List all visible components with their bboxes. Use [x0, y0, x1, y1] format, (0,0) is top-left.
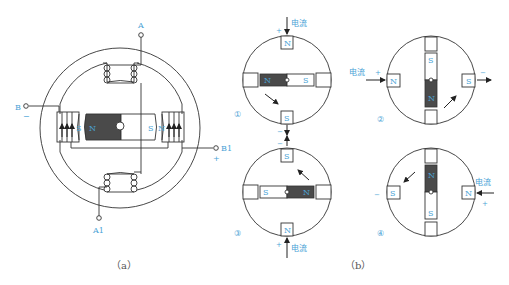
step-number: ④: [377, 229, 384, 238]
pole-left-label: N: [390, 77, 397, 86]
terminal-a1: [97, 216, 102, 221]
rotor-light-label: S: [428, 56, 433, 65]
sign-bottom: −: [277, 128, 283, 136]
pole-top-label: N: [284, 39, 291, 48]
step-number: ①: [234, 110, 241, 119]
rotor-dark-label: N: [428, 171, 435, 180]
current-label: 电流: [291, 243, 307, 253]
terminal-b1: [214, 146, 219, 151]
step-2: N S S N 电流 + − ②: [349, 36, 491, 124]
rotor-light-label: S: [263, 188, 268, 197]
rotor-dark-label: N: [428, 94, 435, 103]
label-b-sign: −: [23, 112, 30, 121]
sign-top: +: [276, 27, 282, 35]
rotor-light-label: S: [303, 76, 308, 85]
rotor-pole-left: N: [89, 124, 96, 133]
right-coil: [162, 112, 184, 142]
pole-right-label: S: [466, 77, 471, 86]
sign-left: +: [375, 69, 381, 77]
current-label: 电流: [349, 67, 365, 77]
rotor-dark-label: N: [264, 76, 271, 85]
terminal-b: [24, 104, 29, 109]
stator-pole-left: S: [76, 124, 81, 133]
pole-top-label: S: [284, 152, 289, 161]
wire-b: [29, 106, 59, 112]
label-b1-sign: +: [213, 154, 220, 163]
pole-bottom-label: S: [284, 114, 289, 123]
rotor-pole-right: S: [148, 124, 153, 133]
pole-right-label: N: [465, 189, 472, 198]
figure-a: A A1 B − B1 + S N S N （a）: [15, 21, 232, 271]
step-number: ③: [234, 229, 241, 238]
label-b: B: [15, 103, 21, 112]
sign-bottom: +: [276, 241, 282, 249]
pole-left-label: S: [390, 189, 395, 198]
rotation-arrow-icon: [265, 94, 278, 104]
rotation-arrow-icon: [444, 96, 456, 108]
pole-bottom-label: N: [284, 226, 291, 235]
rotor-shaft: [116, 122, 124, 130]
sign-top: −: [277, 140, 283, 148]
label-a1: A1: [92, 226, 104, 235]
bottom-coil: [104, 174, 137, 192]
sign-right: +: [482, 200, 488, 208]
stepper-motor-diagram: A A1 B − B1 + S N S N （a） N S N S 电流 + −…: [0, 0, 509, 285]
current-label: 电流: [475, 177, 491, 187]
rotation-arrow-icon: [298, 170, 309, 180]
label-b1: B1: [221, 144, 232, 153]
terminal-a: [139, 33, 144, 38]
rotor-light-label: S: [428, 209, 433, 218]
step-3: S N S N − + 电流 ③: [234, 136, 331, 258]
step-1: N S N S 电流 + − ①: [234, 17, 331, 136]
caption-a: （a）: [111, 260, 137, 271]
sign-right: −: [480, 69, 486, 77]
rotation-arrow-icon: [404, 172, 415, 182]
rotor-dark-label: N: [303, 188, 310, 197]
step-4: S N N S 电流 − + ④: [374, 148, 494, 238]
current-label: 电流: [291, 18, 307, 28]
caption-b: （b）: [345, 260, 371, 271]
step-number: ②: [377, 115, 384, 124]
stator-pole-right: N: [158, 124, 165, 133]
label-a: A: [137, 21, 144, 30]
sign-left: −: [374, 191, 380, 199]
